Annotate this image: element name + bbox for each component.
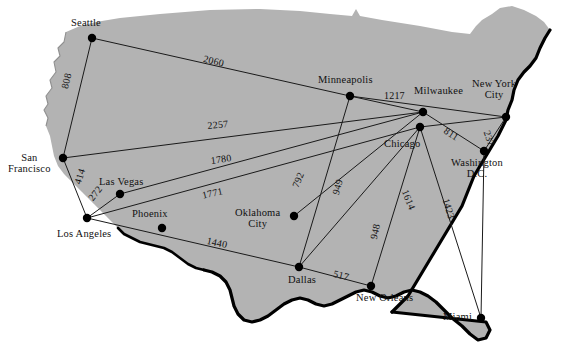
city-node-new_orleans[interactable] [367,282,375,290]
city-node-new_york_city[interactable] [502,113,510,121]
city-node-los_angeles[interactable] [83,214,91,222]
city-label-san_francisco: San Francisco [8,152,51,174]
city-label-dallas: Dallas [288,274,316,285]
city-label-las_vegas: Las Vegas [99,176,143,187]
city-label-los_angeles: Los Angeles [57,228,111,239]
city-node-minneapolis[interactable] [346,92,354,100]
city-node-milwaukee[interactable] [419,108,427,116]
city-label-new_york_city: New York City [472,78,516,100]
edge-weight-minneapolis-milwaukee: 1217 [384,90,405,101]
city-node-phoenix[interactable] [158,224,166,232]
city-label-washington_dc: Washington D.C. [451,157,503,179]
city-label-seattle: Seattle [71,17,101,28]
city-node-chicago[interactable] [416,123,424,131]
city-label-milwaukee: Milwaukee [414,85,463,96]
map-canvas [0,0,573,359]
city-label-oklahoma_city: Oklahoma City [235,207,280,229]
city-node-san_francisco[interactable] [59,154,67,162]
city-label-new_orleans: New Orleans [356,292,413,303]
city-node-seattle[interactable] [88,34,96,42]
city-label-miami: Miami [443,311,472,322]
city-label-chicago: Chicago [384,138,420,149]
city-label-phoenix: Phoenix [132,208,168,219]
city-label-minneapolis: Minneapolis [318,74,373,85]
city-node-miami[interactable] [477,314,485,322]
city-node-oklahoma_city[interactable] [290,212,298,220]
edge-weight-san_francisco-milwaukee: 2257 [207,118,229,131]
us-distance-map: 2060808225741417802721771144079294912178… [0,0,573,359]
city-node-dallas[interactable] [295,263,303,271]
city-node-las_vegas[interactable] [116,190,124,198]
city-node-washington_dc[interactable] [480,147,488,155]
